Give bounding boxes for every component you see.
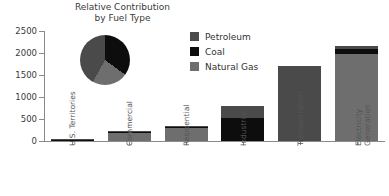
x-axis-line	[44, 141, 385, 142]
y-axis-tick	[39, 141, 45, 142]
legend-item[interactable]: Petroleum	[190, 29, 258, 44]
y-axis-tick-label: 1000	[3, 93, 37, 101]
y-axis-tick-label: 2500	[3, 27, 37, 35]
x-axis-tick-label: Industrial	[240, 111, 249, 146]
chart-figure: Relative Contribution by Fuel Type 05001…	[0, 0, 389, 196]
y-axis-tick	[39, 97, 45, 98]
x-axis-tick-label: Transportation	[297, 92, 306, 146]
legend-swatch-icon	[190, 32, 199, 41]
legend-swatch-icon	[190, 62, 199, 71]
y-axis-tick-label: 1500	[3, 71, 37, 79]
y-axis-tick-label: 2000	[3, 49, 37, 57]
legend-label: Petroleum	[205, 32, 251, 42]
legend-swatch-icon	[190, 47, 199, 56]
legend-label: Coal	[205, 47, 225, 57]
y-axis-tick	[39, 31, 45, 32]
legend-item[interactable]: Coal	[190, 44, 258, 59]
chart-title: Relative Contribution by Fuel Type	[55, 2, 190, 24]
legend: PetroleumCoalNatural Gas	[190, 29, 258, 74]
x-axis-tick-label: Residential	[183, 105, 192, 146]
y-axis-tick	[39, 53, 45, 54]
x-axis-tick-label: Electricity Generation	[355, 104, 372, 146]
legend-item[interactable]: Natural Gas	[190, 59, 258, 74]
x-axis-tick-label: U.S. Territories	[69, 91, 78, 146]
y-axis-labels: 05001000150020002500	[0, 0, 37, 196]
y-axis-tick	[39, 75, 45, 76]
y-axis-tick-label: 0	[3, 137, 37, 145]
x-axis-tick-label: Commercial	[126, 101, 135, 146]
y-axis-tick	[39, 119, 45, 120]
legend-label: Natural Gas	[205, 62, 258, 72]
y-axis-tick-label: 500	[3, 115, 37, 123]
inset-pie-chart	[80, 35, 130, 85]
